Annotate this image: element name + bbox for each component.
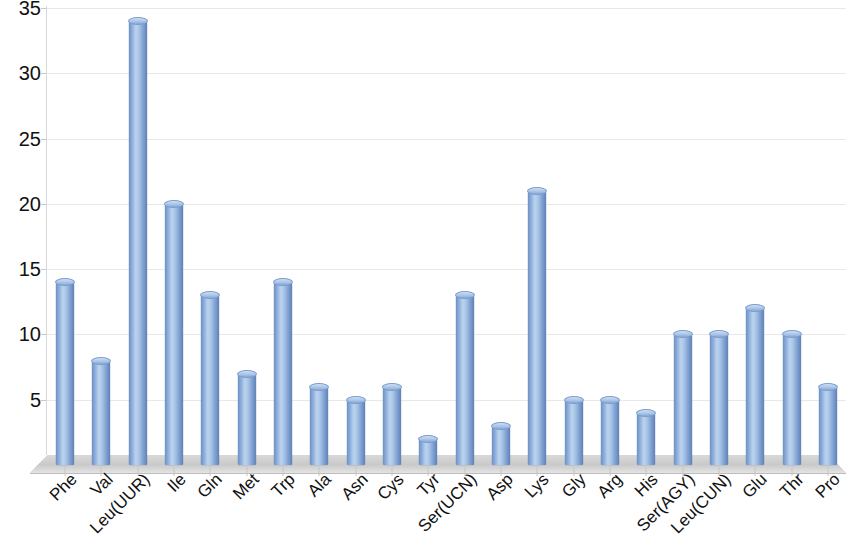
y-axis-tick-label: 35 (5, 0, 41, 18)
x-axis-label-slot: Gly (555, 470, 591, 557)
y-axis-tick-label: 15 (5, 259, 41, 279)
bar-top-cap (564, 396, 584, 404)
x-axis-label-slot: Leu(CUN) (701, 470, 737, 557)
bar-top-cap (600, 396, 620, 404)
bar[interactable] (92, 361, 110, 465)
bar[interactable] (819, 387, 837, 465)
bar-slot (192, 0, 228, 465)
bar-series (47, 0, 846, 465)
bar-top-cap (818, 383, 838, 391)
y-axis-tick-label: 30 (5, 63, 41, 83)
x-axis-label-slot: Met (229, 470, 265, 557)
y-axis-tick-label: 10 (5, 324, 41, 344)
x-axis-tick-label-text: Ala (304, 470, 336, 502)
bar-slot (701, 0, 737, 465)
floor-left-bevel (30, 455, 48, 475)
bar-top-cap (673, 330, 693, 338)
bar-top-cap (91, 357, 111, 365)
x-axis-label-slot: Thr (773, 470, 809, 557)
bar[interactable] (456, 295, 474, 465)
x-axis-tick-label-text: Glu (739, 470, 772, 503)
x-axis-label-slot: Glu (737, 470, 773, 557)
bar-top-cap (418, 435, 438, 443)
bar-slot (156, 0, 192, 465)
y-axis: 05101520253035 (0, 0, 41, 465)
x-axis-label-slot: Arg (592, 470, 628, 557)
x-axis-label-slot: Pro (810, 470, 846, 557)
bar-top-cap (55, 278, 75, 286)
bar-chart: 05101520253035 PheValLeu(UUR)IleGlnMetTr… (0, 0, 852, 557)
bar-top-cap (346, 396, 366, 404)
bar-slot (483, 0, 519, 465)
x-axis-label-slot: Lys (519, 470, 555, 557)
bar-slot (265, 0, 301, 465)
x-axis-tick-label-text: Phe (46, 470, 82, 506)
y-axis-tick-label: 5 (5, 390, 41, 410)
x-axis-label-slot: Asn (338, 470, 374, 557)
bar-top-cap (636, 409, 656, 417)
bar-top-cap (527, 187, 547, 195)
bar-slot (592, 0, 628, 465)
x-axis-label-slot: Asp (483, 470, 519, 557)
bar[interactable] (637, 413, 655, 465)
x-axis-label-slot: Phe (47, 470, 83, 557)
bar[interactable] (383, 387, 401, 465)
bar-top-cap (200, 291, 220, 299)
bar-slot (628, 0, 664, 465)
bar-slot (664, 0, 700, 465)
bar[interactable] (129, 21, 147, 465)
x-axis-tick-label-text: Lys (521, 470, 553, 502)
x-axis-tick-label-text: Arg (593, 470, 626, 503)
bar-top-cap (382, 383, 402, 391)
bar[interactable] (565, 400, 583, 465)
bar[interactable] (783, 334, 801, 465)
bar-slot (301, 0, 337, 465)
bar-top-cap (273, 278, 293, 286)
bar-top-cap (455, 291, 475, 299)
bar[interactable] (347, 400, 365, 465)
x-axis-label-slot: Trp (265, 470, 301, 557)
bar-top-cap (309, 383, 329, 391)
x-axis-label-slot: Leu(UUR) (120, 470, 156, 557)
bar-top-cap (709, 330, 729, 338)
bar[interactable] (674, 334, 692, 465)
x-axis-tick-label-text: Gly (558, 470, 590, 502)
x-axis-tick-label-text: Ile (164, 470, 191, 497)
bar-slot (229, 0, 265, 465)
bar[interactable] (201, 295, 219, 465)
y-axis-tick-label: 20 (5, 194, 41, 214)
bar-top-cap (745, 304, 765, 312)
x-axis-label-slot: Cys (374, 470, 410, 557)
x-axis-label-slot: Gln (192, 470, 228, 557)
bar-slot (737, 0, 773, 465)
x-axis-tick-label-text: Thr (776, 470, 808, 502)
x-axis-tick-label-text: Cys (374, 470, 409, 505)
bar-top-cap (128, 17, 148, 25)
x-axis-tick-label-text: Pro (811, 470, 844, 503)
bar[interactable] (528, 191, 546, 465)
bar-slot (519, 0, 555, 465)
bar-slot (555, 0, 591, 465)
x-axis-tick-label-text: Asp (482, 470, 517, 505)
bar-slot (447, 0, 483, 465)
bar[interactable] (310, 387, 328, 465)
bar[interactable] (419, 439, 437, 465)
x-axis-tick-label-text: Trp (268, 470, 300, 502)
x-axis-label-slot: Ala (301, 470, 337, 557)
bar-slot (120, 0, 156, 465)
bar[interactable] (56, 282, 74, 465)
bar[interactable] (165, 204, 183, 465)
y-axis-tick-label: 25 (5, 129, 41, 149)
bar-top-cap (164, 200, 184, 208)
bar-slot (810, 0, 846, 465)
bar-top-cap (782, 330, 802, 338)
x-axis-tick-label-text: Asn (337, 470, 372, 505)
bar[interactable] (274, 282, 292, 465)
x-axis-label-slot: Ile (156, 470, 192, 557)
bar-slot (374, 0, 410, 465)
bar[interactable] (601, 400, 619, 465)
x-axis-label-slot: Ser(UCN) (447, 470, 483, 557)
bar-slot (83, 0, 119, 465)
x-axis-labels: PheValLeu(UUR)IleGlnMetTrpAlaAsnCysTyrSe… (47, 470, 846, 557)
bar[interactable] (238, 374, 256, 465)
